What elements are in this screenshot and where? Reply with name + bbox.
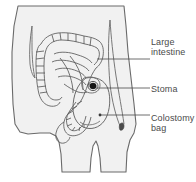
label-colostomy-bag: Colostomy bag: [151, 113, 194, 133]
leader-dot-colostomy-bag: [99, 114, 102, 117]
colostomy-diagram-figure: Large intestine Stoma Colostomy bag: [0, 0, 196, 182]
navel-icon: [119, 123, 124, 130]
label-stoma: Stoma: [151, 84, 178, 94]
stoma-opening: [90, 83, 96, 89]
label-large-intestine: Large intestine: [151, 37, 185, 57]
body-outline-group: [12, 6, 136, 172]
torso-and-legs-shape: [12, 6, 136, 172]
